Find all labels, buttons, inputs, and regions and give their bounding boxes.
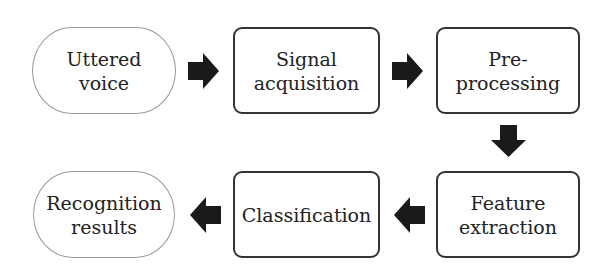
node-classification: Classification: [233, 171, 380, 258]
arrow-right-icon: [392, 53, 423, 89]
arrow-left-icon: [394, 197, 425, 233]
node-pre-processing: Pre- processing: [436, 27, 580, 114]
arrow-down-icon: [491, 125, 526, 157]
node-label: Signal acquisition: [254, 47, 360, 95]
arrow-right-icon: [188, 53, 219, 89]
node-recognition-results: Recognition results: [33, 171, 175, 258]
node-label: Pre- processing: [456, 47, 561, 95]
arrow-left-icon: [190, 197, 221, 233]
node-uttered-voice: Uttered voice: [32, 27, 176, 114]
node-label: Feature extraction: [459, 191, 557, 239]
node-feature-extraction: Feature extraction: [436, 171, 580, 258]
node-label: Uttered voice: [66, 47, 141, 95]
node-label: Recognition results: [46, 191, 162, 239]
node-label: Classification: [242, 203, 372, 227]
node-signal-acquisition: Signal acquisition: [233, 27, 380, 114]
